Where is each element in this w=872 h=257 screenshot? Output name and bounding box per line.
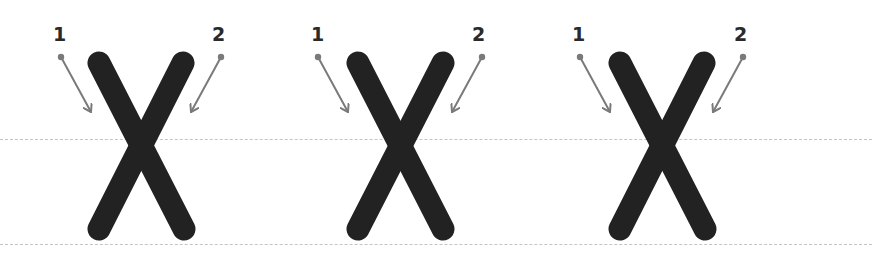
arrow-start-dot-icon: [577, 54, 583, 60]
letter-x-3: [577, 54, 746, 229]
arrow-start-dot-icon: [58, 54, 64, 60]
stroke-order-label-1: 1: [572, 25, 585, 44]
direction-arrow-icon: [580, 57, 610, 112]
arrow-start-dot-icon: [740, 54, 746, 60]
direction-arrow-icon: [318, 57, 348, 112]
stroke-order-label-1: 1: [311, 25, 324, 44]
direction-arrow-icon: [452, 57, 482, 112]
direction-arrow-icon: [191, 57, 221, 112]
letter-x-2: [315, 54, 485, 229]
stroke-order-label-2: 2: [212, 25, 225, 44]
letter-x-tracing-worksheet: 1 2 1 2 1 2: [0, 0, 872, 257]
direction-arrow-icon: [61, 57, 91, 112]
arrow-start-dot-icon: [218, 54, 224, 60]
arrow-start-dot-icon: [479, 54, 485, 60]
arrow-start-dot-icon: [315, 54, 321, 60]
direction-arrow-icon: [713, 57, 743, 112]
stroke-order-label-2: 2: [472, 25, 485, 44]
stroke-order-label-1: 1: [53, 25, 66, 44]
letter-x-1: [58, 54, 224, 229]
stroke-order-label-2: 2: [734, 25, 747, 44]
